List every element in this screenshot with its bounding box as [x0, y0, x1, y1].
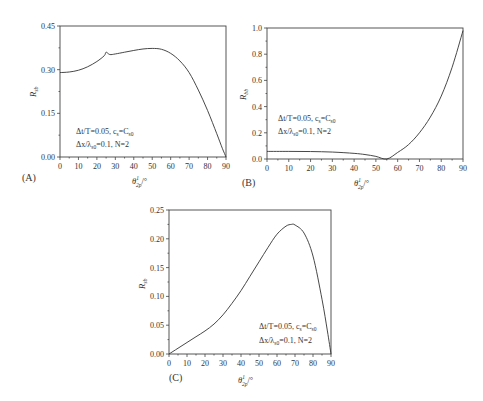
y-tick-label: 0.20 — [150, 235, 164, 244]
x-axis-ticks: 0102030405060708090 — [265, 159, 467, 173]
x-tick-label: 60 — [167, 162, 175, 171]
y-tick-label: 0.15 — [150, 264, 164, 273]
y-axis-ticks: 0.000.050.100.150.200.25 — [150, 206, 169, 359]
y-tick-label: 0.10 — [150, 292, 164, 301]
x-tick-label: 60 — [273, 359, 281, 368]
chart-panel-b: 0.00.20.40.60.81.0 0102030405060708090 R… — [238, 24, 467, 190]
annotation-line-1: Δt/T=0.05, cs=Cs0 — [278, 114, 336, 124]
y-tick-label: 1.0 — [252, 24, 262, 33]
x-tick-label: 60 — [394, 164, 402, 173]
y-axis-title: Rsb — [137, 278, 148, 290]
y-tick-label: 0.0 — [252, 155, 262, 164]
y-tick-label: 0.05 — [150, 321, 164, 330]
x-tick-label: 20 — [201, 359, 209, 368]
x-tick-label: 20 — [93, 162, 101, 171]
x-axis-ticks: 0102030405060708090 — [58, 157, 230, 171]
y-tick-label: 0.6 — [252, 76, 262, 85]
x-tick-label: 0 — [167, 359, 171, 368]
x-tick-label: 40 — [237, 359, 245, 368]
x-tick-label: 50 — [255, 359, 263, 368]
y-tick-label: 0.4 — [252, 103, 262, 112]
x-tick-label: 90 — [327, 359, 335, 368]
x-tick-label: 70 — [291, 359, 299, 368]
x-tick-label: 30 — [219, 359, 227, 368]
x-tick-label: 20 — [307, 164, 315, 173]
annotation-line-1: Δt/T=0.05, cs=Cs0 — [259, 322, 317, 332]
chart-panel-c: 0.000.050.100.150.200.25 010203040506070… — [137, 206, 335, 387]
x-axis-title: θ12p/° — [354, 177, 369, 190]
x-tick-label: 50 — [148, 162, 156, 171]
x-tick-label: 40 — [130, 162, 138, 171]
data-curve — [169, 224, 331, 354]
panel-label: (B) — [242, 177, 255, 189]
annotation-line-2: Δx/λs0=0.1, N=2 — [278, 127, 331, 137]
x-tick-label: 90 — [222, 162, 230, 171]
figure-canvas: 0.000.150.300.45 0102030405060708090 Rsb… — [0, 0, 483, 401]
annotation-line-1: Δt/T=0.05, cs=Cs0 — [76, 127, 134, 137]
x-tick-label: 80 — [309, 359, 317, 368]
x-tick-label: 30 — [111, 162, 119, 171]
y-tick-label: 0.25 — [150, 206, 164, 215]
x-tick-label: 30 — [328, 164, 336, 173]
y-axis-ticks: 0.00.20.40.60.81.0 — [252, 24, 267, 164]
x-tick-label: 10 — [183, 359, 191, 368]
x-tick-label: 90 — [459, 164, 467, 173]
data-curve — [267, 31, 463, 159]
x-tick-label: 0 — [265, 164, 269, 173]
x-tick-label: 80 — [204, 162, 212, 171]
x-axis-title: θ12p/° — [132, 175, 147, 188]
x-tick-label: 70 — [415, 164, 423, 173]
y-tick-label: 0.00 — [150, 350, 164, 359]
plot-frame — [169, 210, 331, 354]
y-tick-label: 0.15 — [41, 109, 55, 118]
y-axis-title: Rbb — [238, 89, 249, 101]
y-axis-ticks: 0.000.150.300.45 — [41, 22, 60, 162]
panel-label: (A) — [22, 172, 36, 184]
y-tick-label: 0.2 — [252, 129, 262, 138]
plot-frame — [267, 28, 463, 159]
y-tick-label: 0.8 — [252, 50, 262, 59]
annotation-line-2: Δx/λs0=0.1, N=2 — [76, 140, 129, 150]
y-axis-title: Rsb — [28, 86, 39, 98]
x-axis-ticks: 0102030405060708090 — [167, 354, 335, 368]
plot-frame — [60, 26, 226, 157]
annotation-line-2: Δx/λs0=0.1, N=2 — [259, 336, 312, 346]
x-tick-label: 10 — [74, 162, 82, 171]
chart-panel-a: 0.000.150.300.45 0102030405060708090 Rsb… — [22, 22, 230, 188]
y-tick-label: 0.45 — [41, 22, 55, 31]
x-tick-label: 40 — [350, 164, 358, 173]
x-axis-title: θ12p/° — [238, 374, 253, 387]
x-tick-label: 50 — [372, 164, 380, 173]
panel-label: (C) — [169, 372, 182, 384]
y-tick-label: 0.30 — [41, 66, 55, 75]
x-tick-label: 10 — [285, 164, 293, 173]
x-tick-label: 80 — [437, 164, 445, 173]
y-tick-label: 0.00 — [41, 153, 55, 162]
x-tick-label: 0 — [58, 162, 62, 171]
x-tick-label: 70 — [185, 162, 193, 171]
